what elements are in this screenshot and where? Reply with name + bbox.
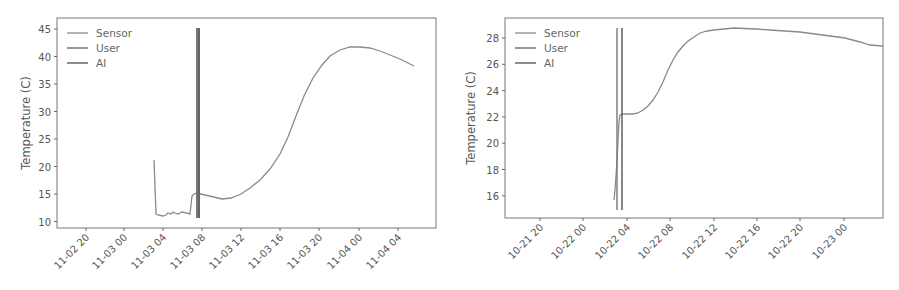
y-tick-label: 30	[38, 107, 51, 118]
figure: 45 40 35 30 25 20 15 10 Temperature (C) …	[0, 0, 899, 290]
x-tick-label: 11-04 04	[364, 232, 404, 272]
x-tick-label: 10-22 00	[549, 222, 589, 262]
y-tick-label: 35	[38, 79, 51, 90]
x-tick-label: 11-03 20	[285, 232, 325, 272]
y-tick-label: 20	[38, 162, 51, 173]
y-tick-label: 45	[38, 24, 51, 35]
x-tick-label: 11-03 08	[168, 232, 208, 272]
x-tick-label: 11-03 16	[246, 232, 286, 272]
y-tick-label: 40	[38, 52, 51, 63]
x-tick-label: 10-21 20	[506, 222, 546, 262]
y-tick-label: 18	[486, 165, 499, 176]
y-axis-right: 28 26 24 22 20 18 16	[486, 33, 505, 202]
x-axis-right: 10-21 20 10-22 00 10-22 04 10-22 08 10-2…	[506, 218, 850, 261]
x-tick-label: 11-04 00	[325, 232, 365, 272]
y-tick-label: 10	[38, 217, 51, 228]
y-tick-label: 20	[486, 138, 499, 149]
x-tick-label: 10-22 20	[766, 222, 806, 262]
x-tick-label: 10-22 12	[680, 222, 720, 262]
x-tick-label: 10-22 16	[723, 222, 763, 262]
y-tick-label: 28	[486, 33, 499, 44]
chart-right: 28 26 24 22 20 18 16 Temperature (C) 10-…	[464, 18, 883, 261]
legend-label-ai: AI	[96, 57, 106, 69]
y-tick-label: 22	[486, 112, 499, 123]
y-tick-label: 25	[38, 134, 51, 145]
legend-label-user: User	[96, 42, 121, 54]
chart-left: 45 40 35 30 25 20 15 10 Temperature (C) …	[19, 18, 436, 271]
y-tick-label: 16	[486, 191, 499, 202]
x-tick-label: 11-03 04	[129, 232, 169, 272]
y-axis-title-right: Temperature (C)	[464, 71, 478, 166]
x-tick-label: 11-03 00	[90, 232, 130, 272]
y-axis-title-left: Temperature (C)	[19, 76, 33, 171]
legend-label-ai: AI	[544, 57, 554, 69]
legend-label-sensor: Sensor	[544, 27, 581, 39]
y-tick-label: 24	[486, 86, 499, 97]
y-axis-left: 45 40 35 30 25 20 15 10	[38, 24, 57, 228]
x-tick-label: 11-03 12	[207, 232, 247, 272]
x-tick-label: 10-22 08	[636, 222, 676, 262]
y-tick-label: 26	[486, 59, 499, 70]
x-tick-label: 10-23 00	[810, 222, 850, 262]
x-tick-label: 11-02 20	[52, 232, 92, 272]
legend-label-user: User	[544, 42, 569, 54]
x-axis-left: 11-02 20 11-03 00 11-03 04 11-03 08 11-0…	[52, 228, 404, 271]
legend-label-sensor: Sensor	[96, 27, 133, 39]
y-tick-label: 15	[38, 189, 51, 200]
x-tick-label: 10-22 04	[593, 222, 633, 262]
